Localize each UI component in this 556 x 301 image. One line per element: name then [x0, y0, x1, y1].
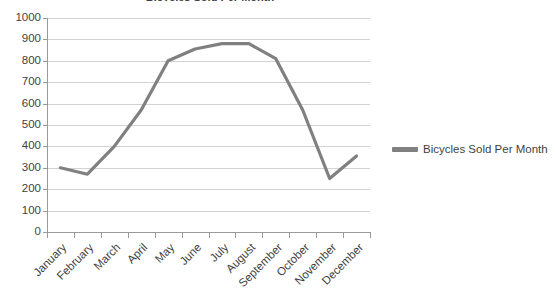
x-tick-mark-8	[262, 233, 263, 238]
x-tick-mark-7	[235, 233, 236, 238]
y-tick-mark-700	[43, 82, 47, 83]
legend: Bicycles Sold Per Month	[392, 143, 548, 155]
series-polyline	[60, 44, 356, 179]
y-tick-mark-300	[43, 168, 47, 169]
y-tick-mark-400	[43, 146, 47, 147]
x-tick-mark-6	[209, 233, 210, 238]
y-tick-mark-1000	[43, 18, 47, 19]
y-tick-mark-900	[43, 39, 47, 40]
line-chart: Bicycles Sold Per Month 0100200300400500…	[0, 0, 556, 301]
x-tick-mark-9	[289, 233, 290, 238]
y-tick-mark-100	[43, 211, 47, 212]
x-tick-mark-2	[101, 233, 102, 238]
x-tick-mark-4	[155, 233, 156, 238]
x-tick-mark-3	[128, 233, 129, 238]
x-tick-mark-5	[182, 233, 183, 238]
y-tick-mark-600	[43, 104, 47, 105]
y-tick-mark-200	[43, 189, 47, 190]
legend-label-bicycles-sold-per-month: Bicycles Sold Per Month	[423, 143, 548, 155]
legend-swatch-bicycles-sold-per-month	[392, 147, 418, 152]
x-tick-mark-10	[316, 233, 317, 238]
x-tick-mark-1	[74, 233, 75, 238]
y-tick-mark-800	[43, 61, 47, 62]
x-tick-mark-0	[47, 233, 48, 238]
series-line-bicycles-sold-per-month	[47, 18, 370, 232]
x-tick-mark-12	[370, 233, 371, 238]
x-tick-mark-11	[343, 233, 344, 238]
y-tick-mark-500	[43, 125, 47, 126]
